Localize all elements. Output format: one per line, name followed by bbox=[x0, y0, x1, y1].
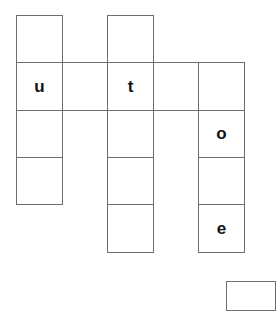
grid-cell[interactable] bbox=[16, 15, 63, 63]
grid-cell[interactable] bbox=[107, 204, 154, 253]
grid-cell[interactable]: o bbox=[198, 110, 245, 158]
grid-cell[interactable] bbox=[153, 62, 199, 111]
grid-cell[interactable]: u bbox=[16, 62, 63, 111]
grid-cell[interactable]: t bbox=[107, 62, 154, 111]
grid-cell[interactable] bbox=[16, 157, 63, 205]
grid-cell[interactable] bbox=[198, 157, 245, 205]
grid-cell[interactable] bbox=[107, 15, 154, 63]
grid-cell[interactable] bbox=[198, 62, 245, 111]
grid-cell[interactable]: e bbox=[198, 204, 245, 253]
partial-cell-offscreen bbox=[226, 281, 276, 311]
grid-cell[interactable] bbox=[16, 110, 63, 158]
grid-cell[interactable] bbox=[107, 110, 154, 158]
grid-cell[interactable] bbox=[62, 62, 108, 111]
grid-cell[interactable] bbox=[107, 157, 154, 205]
